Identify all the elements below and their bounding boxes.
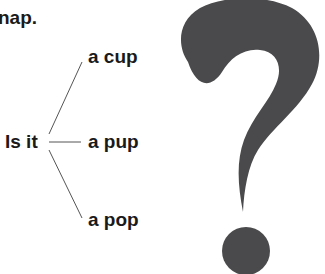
branch-lines	[0, 0, 325, 274]
fragment-text: nap.	[0, 8, 37, 27]
option-a-cup: a cup	[88, 47, 138, 66]
line-to-cup	[49, 62, 82, 134]
option-a-pop: a pop	[88, 210, 139, 229]
option-a-pup: a pup	[88, 132, 139, 151]
question-stem: Is it	[5, 132, 38, 151]
line-to-pop	[49, 150, 82, 218]
